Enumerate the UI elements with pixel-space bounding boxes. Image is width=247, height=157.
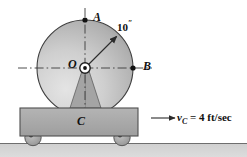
- radius-value: 10: [117, 21, 128, 33]
- mechanics-figure: A B O C 10″ vC = 4 ft/sec: [0, 0, 247, 157]
- inch-mark-icon: ″: [128, 19, 132, 28]
- axle-hub: [80, 63, 90, 73]
- label-cart-velocity: vC = 4 ft/sec: [177, 112, 232, 126]
- label-cart-c: C: [77, 115, 85, 127]
- label-center-o: O: [68, 58, 77, 70]
- point-b-marker: [130, 65, 135, 70]
- label-radius-dimension: 10″: [117, 20, 132, 33]
- label-point-a: A: [93, 11, 101, 23]
- label-point-b: B: [143, 60, 151, 72]
- point-a-marker: [82, 17, 87, 22]
- velocity-equation: = 4 ft/sec: [187, 111, 231, 123]
